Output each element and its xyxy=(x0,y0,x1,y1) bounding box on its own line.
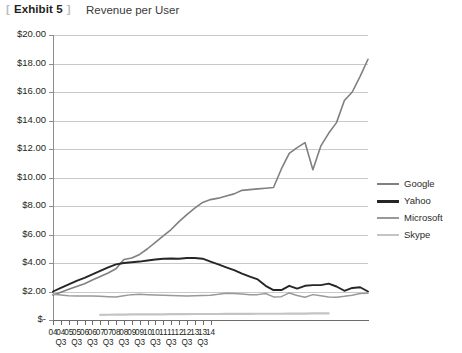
legend-swatch-skype xyxy=(377,234,399,236)
legend-swatch-google xyxy=(377,183,399,185)
legend-swatch-microsoft xyxy=(377,217,399,219)
chart-area: $-$2.00$4.00$6.00$8.00$10.00$12.00$14.00… xyxy=(0,26,462,353)
bracket-close-icon: ] xyxy=(67,3,71,15)
legend-label: Google xyxy=(404,176,435,191)
page-title: Revenue per User xyxy=(86,4,179,16)
exhibit-tag: [Exhibit 5] xyxy=(6,3,71,15)
series-line-skype xyxy=(100,313,328,314)
legend-label: Yahoo xyxy=(404,193,431,208)
series-line-yahoo xyxy=(53,258,368,291)
bracket-open-icon: [ xyxy=(6,3,10,15)
legend-item-microsoft[interactable]: Microsoft xyxy=(377,210,461,227)
legend-item-skype[interactable]: Skype xyxy=(377,227,461,244)
legend: GoogleYahooMicrosoftSkype xyxy=(377,176,461,244)
series-line-microsoft xyxy=(53,293,368,297)
legend-item-google[interactable]: Google xyxy=(377,176,461,193)
chart-page: [Exhibit 5] Revenue per User $-$2.00$4.0… xyxy=(0,0,462,353)
series-line-google xyxy=(53,59,368,295)
exhibit-label: Exhibit 5 xyxy=(14,3,63,15)
legend-item-yahoo[interactable]: Yahoo xyxy=(377,193,461,210)
legend-label: Skype xyxy=(404,227,430,242)
legend-swatch-yahoo xyxy=(377,200,399,203)
exhibit-header: [Exhibit 5] Revenue per User xyxy=(0,0,462,26)
legend-label: Microsoft xyxy=(404,210,443,225)
